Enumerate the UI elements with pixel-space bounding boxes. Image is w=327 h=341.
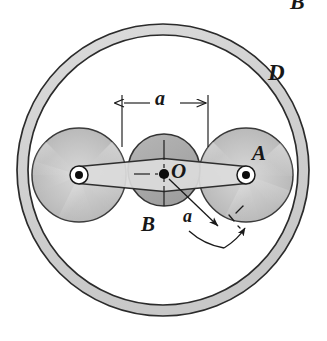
label-disc-A: A [252, 143, 266, 164]
label-dimension-a-radial: a [183, 207, 192, 225]
pin-right [237, 166, 255, 184]
label-ring-D: D [268, 61, 285, 84]
mechanism-diagram [0, 0, 327, 341]
label-cutoff-top: B [290, 0, 305, 13]
label-dimension-a-top: a [155, 88, 165, 108]
pin-left [70, 166, 88, 184]
rotation-arc-arrow [189, 228, 245, 248]
center-point-O-dot [159, 169, 169, 179]
label-disc-B: B [141, 214, 155, 235]
label-center-O: O [171, 161, 186, 182]
figure-canvas: B D A B O a a [0, 0, 327, 341]
